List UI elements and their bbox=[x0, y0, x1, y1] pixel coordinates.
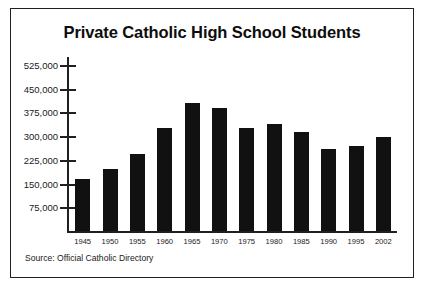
x-tick-label: 2002 bbox=[375, 237, 392, 246]
bar: 1995 bbox=[349, 146, 364, 231]
chart-title: Private Catholic High School Students bbox=[11, 23, 413, 42]
x-axis-line bbox=[67, 231, 397, 233]
x-tick-label: 1990 bbox=[320, 237, 337, 246]
chart-figure: Private Catholic High School Students 75… bbox=[10, 8, 414, 278]
bar: 1970 bbox=[212, 108, 227, 231]
bar: 1990 bbox=[321, 149, 336, 231]
x-tick-label: 1960 bbox=[156, 237, 173, 246]
bar-series: 1945195019551960196519701975198019851990… bbox=[69, 57, 397, 231]
x-tick-label: 1980 bbox=[266, 237, 283, 246]
x-tick-label: 1945 bbox=[74, 237, 91, 246]
y-tick-label: 300,000 bbox=[24, 131, 58, 142]
x-tick-label: 1970 bbox=[211, 237, 228, 246]
x-tick-label: 1965 bbox=[184, 237, 201, 246]
y-tick-label: 75,000 bbox=[29, 202, 58, 213]
bar: 1945 bbox=[75, 179, 90, 231]
y-tick-label: 225,000 bbox=[24, 154, 58, 165]
x-tick-label: 1995 bbox=[348, 237, 365, 246]
bar: 1965 bbox=[185, 103, 200, 231]
y-tick-label: 525,000 bbox=[24, 59, 58, 70]
bar: 1960 bbox=[157, 128, 172, 231]
x-tick-label: 1955 bbox=[129, 237, 146, 246]
bar: 2002 bbox=[376, 137, 391, 231]
bar: 1950 bbox=[103, 169, 118, 231]
y-tick-label: 150,000 bbox=[24, 178, 58, 189]
plot-area: 75,000150,000225,000300,000375,000450,00… bbox=[67, 57, 397, 233]
y-tick-label: 375,000 bbox=[24, 107, 58, 118]
x-tick-label: 1975 bbox=[238, 237, 255, 246]
bar: 1985 bbox=[294, 132, 309, 231]
x-tick-label: 1950 bbox=[102, 237, 119, 246]
bar: 1955 bbox=[130, 154, 145, 231]
source-note: Source: Official Catholic Directory bbox=[25, 253, 153, 263]
bar: 1975 bbox=[239, 128, 254, 231]
x-tick-label: 1985 bbox=[293, 237, 310, 246]
bar: 1980 bbox=[267, 124, 282, 231]
y-tick-label: 450,000 bbox=[24, 83, 58, 94]
